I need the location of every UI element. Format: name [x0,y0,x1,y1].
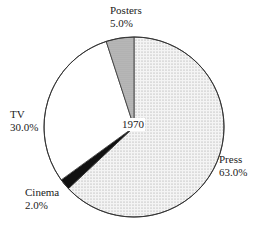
tv-label: TV 30.0% [10,108,38,134]
posters-name: Posters [110,4,142,17]
press-name: Press [219,153,247,166]
cinema-pct: 2.0% [25,199,59,212]
posters-pct: 5.0% [110,17,142,30]
cinema-label: Cinema 2.0% [25,186,59,212]
tv-name: TV [10,108,38,121]
press-label: Press 63.0% [219,153,247,179]
tv-pct: 30.0% [10,121,38,134]
posters-label: Posters 5.0% [110,4,142,30]
cinema-name: Cinema [25,186,59,199]
center-year-label: 1970 [121,118,145,131]
press-pct: 63.0% [219,166,247,179]
